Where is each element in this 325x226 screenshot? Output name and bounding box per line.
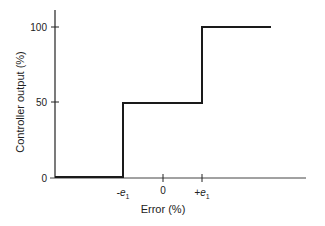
- y-tick-label-100: 100: [30, 22, 47, 33]
- x-tick-label-neg-e1: -e1: [117, 187, 130, 200]
- x-tick-label-pos-e1: +e1: [194, 187, 209, 200]
- y-tick-label-0: 0: [41, 173, 47, 184]
- y-axis-title: Controller output (%): [14, 51, 26, 153]
- y-tick-label-50: 50: [36, 97, 48, 108]
- chart: 100 50 0 -e1 0 +e1 Error (%) Controller …: [0, 0, 325, 226]
- x-axis-title: Error (%): [141, 203, 186, 215]
- controller-output-step-line: [55, 27, 271, 177]
- x-tick-label-zero: 0: [160, 185, 166, 196]
